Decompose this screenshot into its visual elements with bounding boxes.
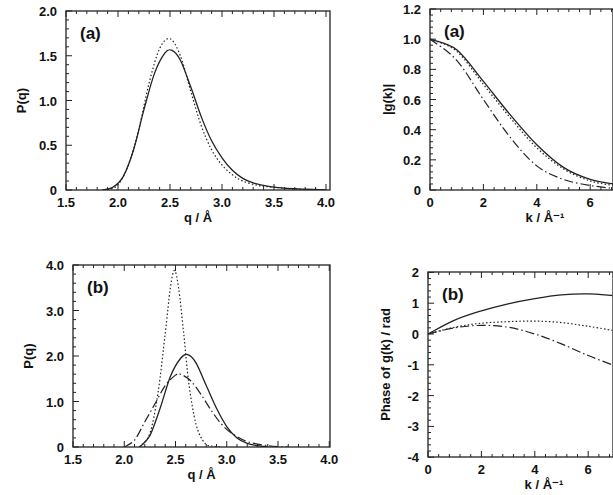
series-dotted-line bbox=[108, 39, 316, 190]
y-tick-label: 0.4 bbox=[403, 123, 422, 138]
y-tick-label: -1 bbox=[407, 358, 419, 373]
x-tick-label: 4.0 bbox=[320, 452, 338, 467]
x-tick-label: 0 bbox=[424, 462, 431, 477]
y-tick-label: 0.6 bbox=[403, 93, 421, 108]
x-tick-label: 4 bbox=[531, 462, 539, 477]
y-tick-label: 1 bbox=[412, 296, 419, 311]
y-tick-label: 1.0 bbox=[403, 32, 421, 47]
x-tick-label: 2 bbox=[480, 195, 487, 210]
panel-top-left: 1.52.02.53.03.54.000.51.01.52.0q / ÅP(q)… bbox=[14, 4, 335, 225]
x-tick-label: 2 bbox=[478, 462, 485, 477]
y-axis-label: |g(k)| bbox=[380, 84, 395, 115]
panel-label: (b) bbox=[87, 278, 109, 297]
y-tick-label: 0 bbox=[412, 327, 419, 342]
y-axis-label: Phase of g(k) / rad bbox=[378, 308, 393, 421]
x-tick-label: 6 bbox=[587, 195, 594, 210]
y-tick-label: 2.0 bbox=[46, 349, 64, 364]
x-axis-label: q / Å bbox=[184, 210, 213, 225]
figure: 1.52.02.53.03.54.000.51.01.52.0q / ÅP(q)… bbox=[0, 0, 613, 495]
x-tick-label: 3.0 bbox=[213, 195, 231, 210]
series-dash-dot-line bbox=[428, 325, 612, 364]
y-tick-label: 1.0 bbox=[39, 94, 57, 109]
x-tick-label: 2.5 bbox=[166, 452, 184, 467]
y-tick-label: 4.0 bbox=[46, 258, 64, 273]
y-axis-label: P(q) bbox=[14, 88, 29, 113]
y-tick-label: 0 bbox=[57, 440, 64, 455]
y-tick-label: 0.5 bbox=[39, 138, 57, 153]
x-tick-label: 3.0 bbox=[218, 452, 236, 467]
panel-top-right: 024600.20.40.60.81.01.2k / Å⁻¹|g(k)|(a) bbox=[380, 2, 613, 225]
plot-frame bbox=[66, 11, 330, 190]
y-tick-label: 1.0 bbox=[46, 395, 64, 410]
y-tick-label: -2 bbox=[407, 389, 419, 404]
series-solid-line bbox=[140, 354, 268, 447]
x-tick-label: 0 bbox=[426, 195, 433, 210]
x-tick-label: 3.5 bbox=[265, 195, 283, 210]
y-tick-label: 1.2 bbox=[403, 2, 421, 17]
y-tick-label: 2.0 bbox=[39, 4, 57, 19]
x-tick-label: 6 bbox=[585, 462, 592, 477]
panel-label: (a) bbox=[80, 24, 101, 43]
panel-label: (b) bbox=[442, 285, 464, 304]
y-tick-label: 1.5 bbox=[39, 49, 57, 64]
series-solid-line bbox=[102, 50, 326, 190]
y-tick-label: 0 bbox=[50, 183, 57, 198]
x-tick-label: 2.0 bbox=[115, 452, 133, 467]
plot-frame bbox=[73, 265, 330, 447]
x-tick-label: 2.0 bbox=[109, 195, 127, 210]
y-tick-label: -4 bbox=[407, 450, 419, 465]
x-tick-label: 1.5 bbox=[57, 195, 75, 210]
series-dash-dot-line bbox=[430, 39, 613, 188]
y-axis-label: P(q) bbox=[21, 343, 36, 368]
y-tick-label: 0.8 bbox=[403, 62, 421, 77]
x-tick-label: 4 bbox=[533, 195, 541, 210]
panel-label: (a) bbox=[444, 22, 465, 41]
y-tick-label: 0 bbox=[414, 183, 421, 198]
panel-bottom-right: 0246-4-3-2-1012k / Å⁻¹Phase of g(k) / ra… bbox=[378, 265, 613, 492]
x-tick-label: 3.5 bbox=[269, 452, 287, 467]
x-axis-label: q / Å bbox=[187, 467, 216, 482]
y-tick-label: 2 bbox=[412, 265, 419, 280]
x-tick-label: 4.0 bbox=[317, 195, 335, 210]
y-tick-label: 0.2 bbox=[403, 153, 421, 168]
y-tick-label: 3.0 bbox=[46, 304, 64, 319]
y-tick-label: -3 bbox=[407, 419, 419, 434]
series-dotted-line bbox=[428, 321, 612, 334]
x-axis-label: k / Å⁻¹ bbox=[525, 477, 564, 492]
panel-bottom-left: 1.52.02.53.03.54.001.02.03.04.0q / ÅP(q)… bbox=[21, 258, 338, 482]
x-axis-label: k / Å⁻¹ bbox=[526, 210, 565, 225]
x-tick-label: 2.5 bbox=[161, 195, 179, 210]
x-tick-label: 1.5 bbox=[64, 452, 82, 467]
